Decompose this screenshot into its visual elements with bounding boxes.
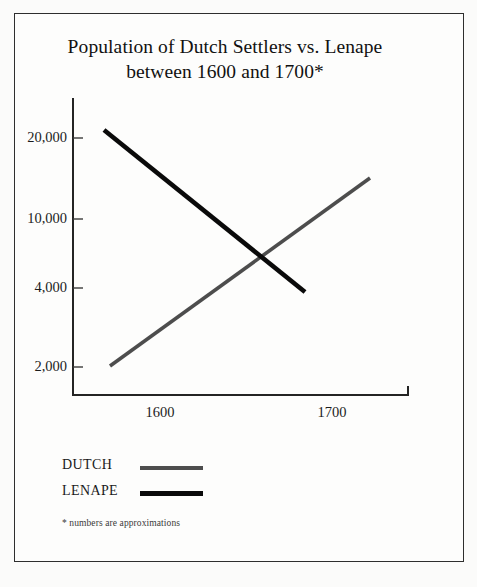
y-tick-label-2000-wrap: 2,000 xyxy=(5,358,67,376)
y-tick-label-10000-wrap: 10,000 xyxy=(5,210,67,228)
y-tick-label-4000-wrap: 4,000 xyxy=(5,279,67,297)
y-tick-label-10000: 10,000 xyxy=(27,210,67,227)
y-tick-label-2000: 2,000 xyxy=(34,358,67,375)
y-tick-label-20000: 20,000 xyxy=(27,129,67,146)
legend-label-dutch: DUTCH xyxy=(62,457,112,473)
chart-footnote: * numbers are approximations xyxy=(62,518,180,528)
chart-figure: Population of Dutch Settlers vs. Lenape … xyxy=(0,0,477,587)
chart-legend: DUTCH LENAPE xyxy=(62,455,322,507)
legend-label-lenape: LENAPE xyxy=(62,483,118,499)
legend-item-dutch[interactable]: DUTCH xyxy=(62,455,322,481)
legend-item-lenape[interactable]: LENAPE xyxy=(62,481,322,507)
y-tick-label-20000-wrap: 20,000 xyxy=(5,129,67,147)
y-tick-label-4000: 4,000 xyxy=(34,279,67,296)
legend-swatch-lenape xyxy=(140,491,203,496)
x-tick-label-1700: 1700 xyxy=(302,404,362,421)
series-line-lenape xyxy=(104,130,305,292)
legend-swatch-dutch xyxy=(140,466,203,470)
series-line-dutch xyxy=(110,178,370,366)
x-tick-label-1600: 1600 xyxy=(130,404,190,421)
x-axis-line xyxy=(73,386,408,395)
